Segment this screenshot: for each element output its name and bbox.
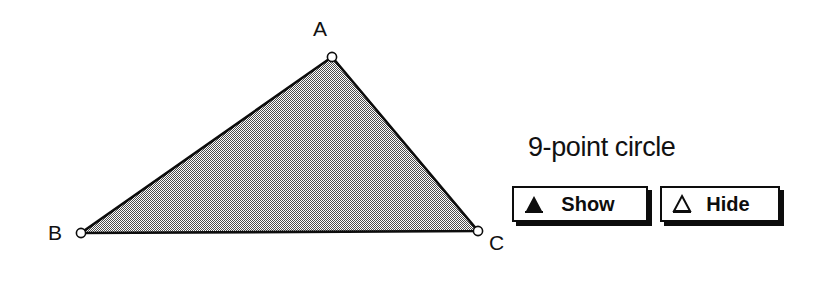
- vertex-handle-b[interactable]: [76, 228, 85, 237]
- show-button-label: Show: [545, 194, 637, 214]
- filled-triangle-icon: [523, 193, 545, 215]
- geometry-canvas[interactable]: A B C: [0, 0, 520, 283]
- geometry-applet: A B C 9-point circle Show Hide: [0, 0, 817, 283]
- vertex-handle-a[interactable]: [327, 52, 336, 61]
- vertex-label-b: B: [48, 222, 62, 243]
- hide-button[interactable]: Hide: [660, 186, 780, 222]
- panel-title: 9-point circle: [528, 134, 675, 161]
- nine-point-circle-panel: 9-point circle Show Hide: [510, 134, 800, 239]
- outline-triangle-icon: [671, 193, 693, 215]
- vertex-label-c: C: [489, 232, 504, 253]
- triangle-drawing: [0, 0, 520, 283]
- vertex-handle-c[interactable]: [473, 226, 482, 235]
- triangle-shape[interactable]: [81, 57, 478, 233]
- hide-button-wrapper: Hide: [660, 186, 784, 222]
- show-button-wrapper: Show: [512, 186, 652, 222]
- show-button[interactable]: Show: [512, 186, 648, 222]
- vertex-label-a: A: [313, 18, 327, 39]
- hide-button-label: Hide: [693, 194, 769, 214]
